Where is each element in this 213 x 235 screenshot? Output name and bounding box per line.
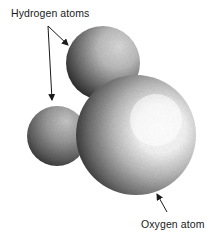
arrow-to-oxygen	[157, 194, 167, 212]
arrow-to-upper-hydrogen	[48, 26, 68, 45]
hydrogen-atoms-label: Hydrogen atoms	[11, 7, 89, 19]
water-molecule-diagram	[0, 0, 213, 235]
arrow-to-lower-hydrogen	[48, 26, 52, 100]
oxygen-atom-highlight	[130, 94, 182, 146]
oxygen-atom-label: Oxygen atom	[141, 218, 205, 230]
